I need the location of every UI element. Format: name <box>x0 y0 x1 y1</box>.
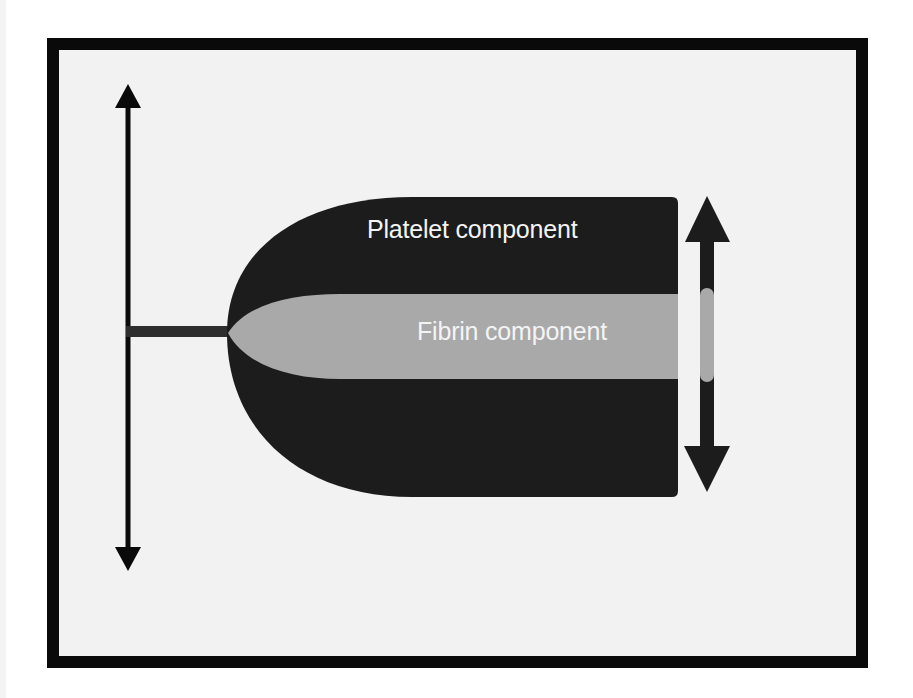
fibrin-component-label: Fibrin component <box>417 317 607 346</box>
vertical-double-arrow-right-icon <box>684 196 730 492</box>
platelet-component-label: Platelet component <box>367 215 577 244</box>
thrombus-diagram <box>0 0 913 698</box>
stalk <box>126 326 232 337</box>
fibrin-segment-marker <box>700 288 714 382</box>
